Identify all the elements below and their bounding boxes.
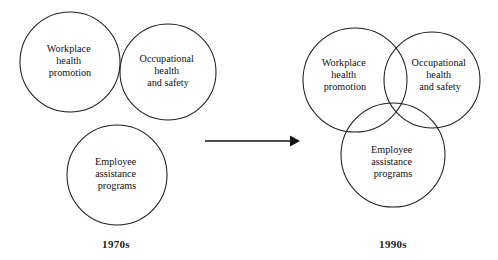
stage-label-1970s: 1970s <box>102 238 130 250</box>
label-line: health <box>331 69 356 80</box>
circle-label-occupational-health-and-safety-1970s: Occupational health and safety <box>140 53 197 88</box>
label-line: health <box>56 55 81 66</box>
label-line: Employee <box>371 144 413 155</box>
label-line: and safety <box>147 78 189 89</box>
circle-group-occupational-health-and-safety-1970s[interactable]: Occupational health and safety <box>120 24 216 120</box>
panel-1970s: Workplace health promotion Occupational … <box>20 12 216 225</box>
circle-label-employee-assistance-programs-1970s: Employee assistance programs <box>95 156 139 191</box>
label-line: programs <box>374 169 413 180</box>
panel-1990s: Workplace health promotion Occupational … <box>303 28 480 207</box>
label-line: Occupational <box>412 57 466 68</box>
label-line: health <box>154 65 179 76</box>
label-line: promotion <box>49 68 91 79</box>
stage-label-1990s: 1990s <box>379 238 407 250</box>
circle-label-occupational-health-and-safety-1990s: Occupational health and safety <box>412 57 469 92</box>
label-line: Occupational <box>140 53 194 64</box>
label-line: Workplace <box>47 43 91 54</box>
label-line: Workplace <box>322 57 366 68</box>
circle-label-employee-assistance-programs-1990s: Employee assistance programs <box>371 144 415 179</box>
diagram-root: Workplace health promotion Occupational … <box>0 0 498 260</box>
arrow-head-icon <box>290 136 300 147</box>
circle-group-employee-assistance-programs-1970s[interactable]: Employee assistance programs <box>67 125 167 225</box>
circle-group-workplace-health-promotion-1970s[interactable]: Workplace health promotion <box>20 12 120 112</box>
label-line: assistance <box>95 168 136 179</box>
label-line: Employee <box>95 156 137 167</box>
transition-arrow <box>205 136 300 147</box>
label-line: health <box>426 69 451 80</box>
label-line: assistance <box>371 156 412 167</box>
venn-diagram-canvas: Workplace health promotion Occupational … <box>0 0 498 260</box>
label-line: programs <box>98 181 137 192</box>
circle-label-workplace-health-promotion-1990s: Workplace health promotion <box>322 57 368 92</box>
label-line: and safety <box>419 82 461 93</box>
circle-label-workplace-health-promotion-1970s: Workplace health promotion <box>47 43 93 78</box>
label-line: promotion <box>324 82 366 93</box>
